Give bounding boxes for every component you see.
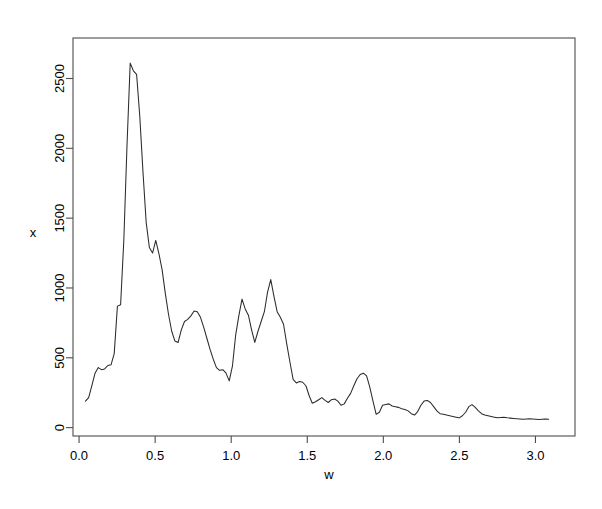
y-tick-label: 0: [52, 424, 67, 431]
x-tick-label: 2.0: [374, 448, 392, 463]
x-tick-label: 2.5: [450, 448, 468, 463]
x-tick-label: 1.0: [222, 448, 240, 463]
periodogram-chart: 0.00.51.01.52.02.53.0 050010001500200025…: [0, 0, 602, 509]
figure-container: 0.00.51.01.52.02.53.0 050010001500200025…: [0, 0, 602, 509]
y-tick-label: 1000: [52, 274, 67, 303]
y-tick-label: 500: [52, 347, 67, 369]
x-tick-label: 0.0: [70, 448, 88, 463]
x-tick-label: 1.5: [298, 448, 316, 463]
x-tick-label: 3.0: [526, 448, 544, 463]
y-tick-label: 2000: [52, 134, 67, 163]
chart-background: [0, 0, 602, 509]
y-tick-label: 1500: [52, 204, 67, 233]
x-axis-title: w: [323, 467, 334, 482]
y-tick-label: 2500: [52, 64, 67, 93]
y-axis-title: x: [30, 225, 37, 240]
x-tick-label: 0.5: [146, 448, 164, 463]
